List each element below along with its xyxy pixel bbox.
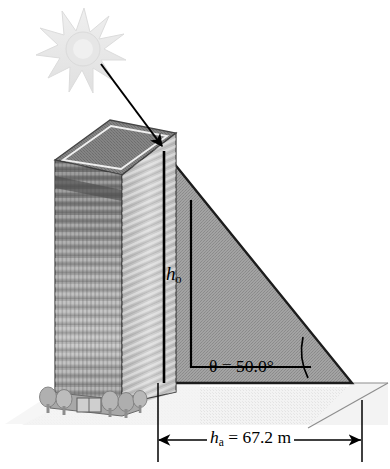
shadow-length-label: ha = 67.2 m <box>207 429 294 449</box>
physics-diagram-figure: ho θ = 50.0° ha = 67.2 m <box>0 0 390 469</box>
elevation-angle-label: θ = 50.0° <box>209 358 274 376</box>
sun-core <box>73 39 93 59</box>
ha-symbol: h <box>210 427 219 447</box>
diagram-canvas <box>0 0 390 469</box>
building-illustration <box>50 120 176 416</box>
height-of-building-label: ho <box>166 264 182 285</box>
ha-value-text: = 67.2 m <box>224 427 291 447</box>
ho-symbol: h <box>166 263 176 284</box>
shadow-triangle-shape <box>164 151 352 383</box>
shadow-triangle <box>164 151 352 383</box>
theta-text: θ = 50.0° <box>209 356 274 376</box>
ho-subscript: o <box>176 272 182 286</box>
